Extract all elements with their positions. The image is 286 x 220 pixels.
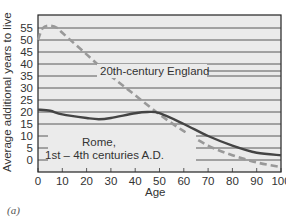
svg-text:5: 5	[27, 142, 33, 154]
svg-text:40: 40	[20, 58, 33, 70]
y-axis-label: Average additional years to live	[1, 12, 13, 172]
svg-text:15: 15	[20, 118, 33, 130]
svg-text:70: 70	[202, 175, 215, 187]
svg-text:0: 0	[27, 154, 33, 166]
y-axis-ticks: 0510152025303540455055	[20, 22, 33, 166]
svg-text:30: 30	[20, 82, 33, 94]
svg-text:90: 90	[250, 175, 263, 187]
svg-text:20: 20	[80, 175, 93, 187]
svg-text:45: 45	[20, 46, 33, 58]
svg-text:60: 60	[177, 175, 190, 187]
svg-text:40: 40	[129, 175, 142, 187]
svg-text:50: 50	[20, 34, 33, 46]
rome-label-line1: Rome,	[82, 136, 116, 148]
svg-text:100: 100	[271, 175, 286, 187]
rome-label-line2: 1st – 4th centuries A.D.	[45, 149, 164, 161]
svg-text:10: 10	[56, 175, 69, 187]
svg-text:80: 80	[226, 175, 239, 187]
svg-text:35: 35	[20, 70, 33, 82]
svg-text:10: 10	[20, 130, 33, 142]
england-label: 20th-century England	[100, 65, 209, 77]
svg-text:25: 25	[20, 94, 33, 106]
figure-caption: (a)	[7, 204, 20, 216]
svg-text:30: 30	[105, 175, 118, 187]
life-expectancy-chart: 0510152025303540455055 01020304050607080…	[0, 0, 286, 220]
x-axis-label: Age	[145, 186, 165, 198]
svg-text:55: 55	[20, 22, 33, 34]
svg-text:20: 20	[20, 106, 33, 118]
svg-text:0: 0	[35, 175, 41, 187]
